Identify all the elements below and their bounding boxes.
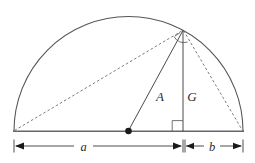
geometry-figure: A G a b xyxy=(0,0,255,163)
dimension-a-arrowhead-right-icon xyxy=(173,143,182,150)
right-angle-base-mark-icon xyxy=(172,121,183,131)
label-a: a xyxy=(80,140,86,154)
dimension-b-arrowhead-left-icon xyxy=(186,143,194,149)
diagram-root: A G a b xyxy=(0,0,255,163)
label-G: G xyxy=(187,89,197,104)
dimension-b-arrowhead-right-icon xyxy=(233,143,242,149)
radius-line-A xyxy=(129,30,184,130)
label-b: b xyxy=(209,140,215,154)
right-angle-apex-arc-icon xyxy=(174,37,188,43)
chord-left-dashed xyxy=(15,31,183,131)
label-A: A xyxy=(155,89,164,104)
dimension-a-arrowhead-left-icon xyxy=(15,143,24,150)
chord-right-dashed xyxy=(184,31,243,131)
center-dot xyxy=(125,128,132,135)
